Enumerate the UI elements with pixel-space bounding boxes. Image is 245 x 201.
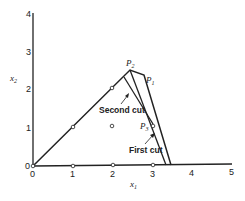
p2-label: P2: [125, 58, 135, 69]
x-tick-3: 3: [150, 169, 155, 179]
y-tick-4: 4: [26, 9, 31, 19]
second-cut-label: Second cut: [99, 105, 145, 115]
x-tick-5: 5: [229, 167, 234, 177]
y-tick-1: 1: [26, 123, 31, 133]
integer-point: [31, 164, 35, 168]
integer-point: [110, 124, 114, 128]
integer-point: [71, 125, 75, 129]
x-tick-4: 4: [189, 168, 194, 178]
y-tick-3: 3: [26, 47, 31, 57]
second-cut-arrowhead: [125, 93, 129, 98]
integer-point: [110, 86, 114, 90]
x-axis: [33, 164, 232, 166]
integer-point: [111, 163, 115, 167]
x-axis-label: x1: [129, 179, 137, 190]
integer-point: [151, 163, 155, 167]
chart: 4 3 2 1 0 0 1 2 3 4 5 x1 x2 P2 P1 P3 Sec…: [0, 0, 245, 201]
p1-label: P1: [145, 75, 155, 86]
integer-point: [151, 124, 155, 128]
p3-label: P3: [139, 121, 149, 132]
x-tick-2: 2: [110, 169, 115, 179]
first-cut-label: First cut: [129, 145, 163, 155]
x-tick-1: 1: [70, 169, 75, 179]
integer-point: [71, 164, 75, 168]
x-tick-0: 0: [30, 169, 35, 179]
y-tick-2: 2: [26, 84, 31, 94]
y-axis-label: x2: [9, 73, 17, 84]
